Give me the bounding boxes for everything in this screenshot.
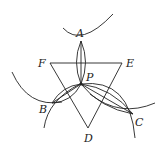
lens-pa-right	[81, 41, 86, 84]
segment-pc	[81, 84, 133, 114]
lens-pa-left	[77, 41, 82, 84]
arc-top	[63, 14, 113, 35]
segment-df	[50, 63, 88, 128]
point-p-dot	[79, 82, 82, 85]
arc-left	[12, 72, 62, 103]
label-p: P	[85, 71, 94, 84]
segment-pb	[52, 84, 81, 103]
label-e: E	[125, 57, 134, 70]
label-b: B	[38, 103, 47, 116]
label-d: D	[83, 132, 93, 145]
label-f: F	[37, 57, 46, 70]
geometry-diagram: A F E P B C D	[0, 0, 165, 153]
arc-bottom-left	[44, 84, 80, 128]
label-c: C	[135, 116, 144, 129]
label-a: A	[75, 27, 84, 40]
